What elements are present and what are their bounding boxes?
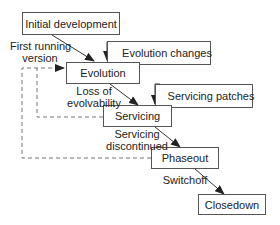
servicing-discontinued-line1: Servicing [102,128,172,140]
servicing-patches-label: Servicing patches [168,90,255,102]
first-running-version-line1: First running [10,40,70,52]
initial-development-label: Initial development [25,18,117,30]
evolution-label: Evolution [80,67,125,79]
evolution-changes-label: Evolution changes [122,47,212,59]
closedown-box: Closedown [198,194,266,215]
servicing-discontinued-line2: discontinued [102,140,172,152]
switchoff-label: Switchoff [155,174,215,186]
loss-of-evolvability-line2: evolvability [64,97,124,109]
loss-of-evolvability-label: Loss of evolvability [64,85,124,109]
servicing-label: Servicing [115,110,160,122]
switchoff-line: Switchoff [155,174,215,186]
closedown-label: Closedown [205,199,259,211]
loss-of-evolvability-line1: Loss of [64,85,124,97]
servicing-discontinued-label: Servicing discontinued [102,128,172,152]
initial-development-box: Initial development [22,12,120,35]
first-running-version-label: First running version [10,40,70,64]
first-running-version-line2: version [10,52,70,64]
evolution-box: Evolution [66,62,140,84]
phaseout-label: Phaseout [162,152,208,164]
